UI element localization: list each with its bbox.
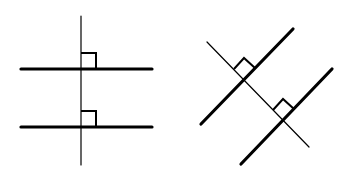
right-angle-mark	[273, 99, 294, 110]
right-angle-mark	[81, 53, 96, 69]
right-angle-mark	[234, 58, 255, 69]
parallel-line	[201, 29, 293, 124]
parallel-line	[241, 69, 332, 164]
left-diagram	[21, 16, 152, 165]
perpendicular-parallel-lines-diagram	[0, 0, 349, 180]
transversal-line	[207, 42, 309, 147]
right-angle-mark	[81, 111, 96, 127]
right-diagram	[201, 29, 332, 164]
